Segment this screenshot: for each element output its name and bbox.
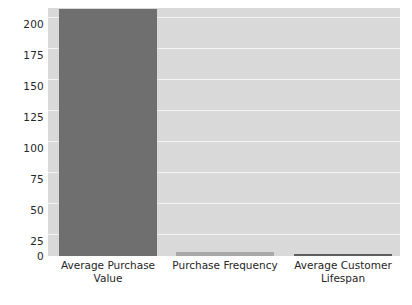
y-axis-tick-labels: 200 175 150 125 100 75 50 25 0 xyxy=(0,8,44,256)
y-tick-175: 175 xyxy=(4,50,44,61)
x-tick-label-line1: Purchase Frequency xyxy=(165,259,285,272)
plot-area xyxy=(48,8,400,256)
bar-average-customer-lifespan[interactable] xyxy=(294,254,392,257)
y-tick-150: 150 xyxy=(4,81,44,92)
x-axis-tick-labels: Average Purchase Value Purchase Frequenc… xyxy=(48,259,400,303)
x-tick-label-line1: Average Customer xyxy=(283,259,403,272)
y-tick-100: 100 xyxy=(4,143,44,154)
bar-average-purchase-value[interactable] xyxy=(59,9,157,256)
y-tick-50: 50 xyxy=(4,205,44,216)
x-tick-purchase-frequency: Purchase Frequency xyxy=(165,259,285,272)
x-tick-label-line2: Lifespan xyxy=(283,272,403,285)
y-tick-0: 0 xyxy=(4,251,44,262)
x-tick-average-customer-lifespan: Average Customer Lifespan xyxy=(283,259,403,285)
bar-chart-figure: Value 200 175 150 125 100 75 50 25 0 Ave… xyxy=(0,0,412,305)
y-tick-125: 125 xyxy=(4,112,44,123)
x-tick-label-line1: Average Purchase xyxy=(48,259,168,272)
y-tick-75: 75 xyxy=(4,174,44,185)
y-tick-200: 200 xyxy=(4,19,44,30)
x-tick-label-line2: Value xyxy=(48,272,168,285)
x-tick-average-purchase-value: Average Purchase Value xyxy=(48,259,168,285)
y-tick-25: 25 xyxy=(4,236,44,247)
bar-purchase-frequency[interactable] xyxy=(176,252,274,256)
